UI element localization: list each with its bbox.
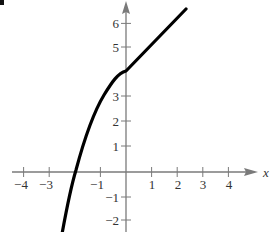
x-tick-label: 3 [200,177,207,192]
y-tick-label: 6 [113,16,120,31]
x-tick-label: −1 [90,177,104,192]
y-axis [121,1,131,232]
y-tick-label: −1 [105,190,119,205]
x-axis-arrow-icon [244,168,258,176]
x-axis-label: x [262,165,269,180]
x-tick-labels: −4 −3 −1 1 2 3 4 [14,177,233,192]
y-tick-label: −2 [105,213,119,228]
y-tick-label: 1 [113,139,120,154]
x-tick-label: 2 [175,177,182,192]
x-tick-label: −3 [39,177,53,192]
y-tick-labels: 6 5 3 2 1 −1 −2 [105,16,119,228]
x-tick-label: 4 [226,177,233,192]
y-tick-label: 2 [113,114,120,129]
function-graph: x −4 −3 −1 1 2 3 4 6 5 3 2 1 −1 −2 [0,0,274,232]
x-tick-label: −4 [14,177,28,192]
y-tick-label: 5 [113,40,120,55]
y-tick-label: 3 [113,89,120,104]
x-tick-label: 1 [149,177,156,192]
